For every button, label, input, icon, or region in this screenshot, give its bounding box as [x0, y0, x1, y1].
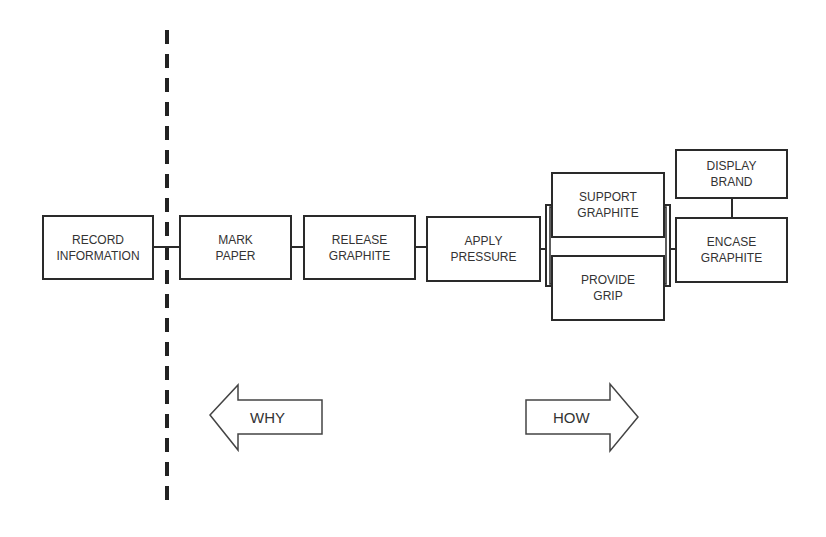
fast-diagram: RECORD INFORMATION MARK PAPER RELEASE GR…: [0, 0, 826, 537]
box-support-graphite: SUPPORT GRAPHITE: [551, 172, 665, 238]
box-apply-pressure: APPLY PRESSURE: [426, 216, 541, 282]
why-label: WHY: [250, 409, 285, 426]
box-provide-grip: PROVIDE GRIP: [551, 255, 665, 321]
box-record-information: RECORD INFORMATION: [42, 215, 154, 280]
box-mark-paper: MARK PAPER: [179, 215, 292, 280]
box-display-brand: DISPLAY BRAND: [675, 149, 788, 199]
box-release-graphite: RELEASE GRAPHITE: [303, 215, 416, 280]
how-label: HOW: [553, 409, 590, 426]
box-encase-graphite: ENCASE GRAPHITE: [675, 217, 788, 283]
